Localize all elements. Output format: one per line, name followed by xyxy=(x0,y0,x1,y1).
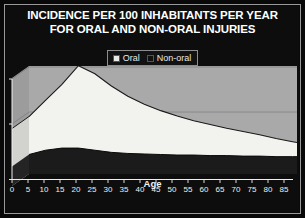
legend-item-non-oral[interactable]: Non-oral xyxy=(147,53,192,63)
area-chart-svg: 0 10 20 xyxy=(8,66,297,194)
chart-title: INCIDENCE PER 100 INHABITANTS PER YEAR F… xyxy=(10,8,295,36)
chart-frame: INCIDENCE PER 100 INHABITANTS PER YEAR F… xyxy=(0,0,305,218)
legend-box: Oral Non-oral xyxy=(107,50,199,66)
chart-plot-area: 0 10 20 xyxy=(8,66,297,194)
legend-label-oral: Oral xyxy=(123,53,140,63)
chart-legend: Oral Non-oral xyxy=(0,50,305,66)
legend-item-oral[interactable]: Oral xyxy=(113,53,140,63)
x-axis-title: Age xyxy=(0,178,305,189)
chart-title-line1: INCIDENCE PER 100 INHABITANTS PER YEAR xyxy=(27,9,278,21)
legend-label-non-oral: Non-oral xyxy=(157,53,192,63)
chart-title-line2: FOR ORAL AND NON-ORAL INJURIES xyxy=(10,22,295,36)
legend-swatch-non-oral xyxy=(147,55,154,62)
legend-swatch-oral xyxy=(113,55,120,62)
